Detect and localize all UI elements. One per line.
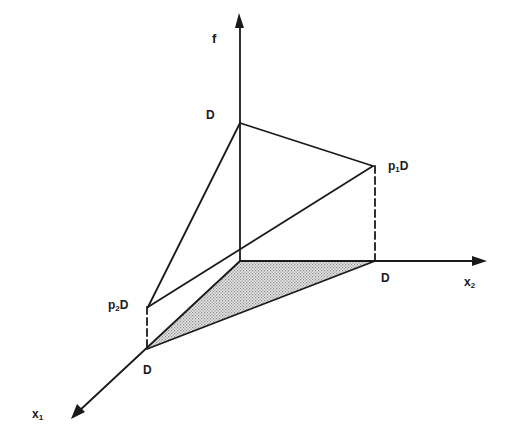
x2-axis-arrow-icon [472,256,487,266]
edge-fD-p1D [240,123,373,166]
x1-axis-label: x1 [32,408,43,422]
diagram-canvas [0,0,510,443]
f-axis-arrow-icon [235,13,244,28]
x2-axis-label: x2 [464,276,475,290]
p2D-label: p2D [108,299,128,313]
x2-intercept-label: D [381,272,390,284]
f-intercept-label: D [206,109,215,121]
x1-intercept-label: D [143,364,152,376]
f-axis-label: f [212,32,216,45]
p1D-label: p1D [388,160,408,174]
